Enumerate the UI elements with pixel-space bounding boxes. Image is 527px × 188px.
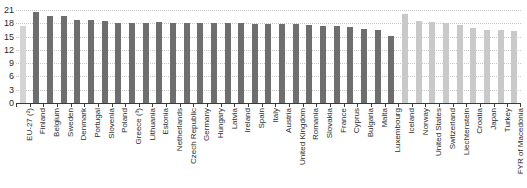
- bar: [429, 22, 435, 103]
- bar-slot: [57, 10, 71, 103]
- y-axis: 036912151821: [0, 10, 14, 103]
- y-tick-label: 18: [4, 19, 14, 28]
- x-tick: [262, 103, 263, 107]
- bar: [306, 25, 312, 103]
- x-tick-label: Iceland: [408, 108, 416, 134]
- bar-slot: [71, 10, 85, 103]
- bar-slot: [221, 10, 235, 103]
- x-tick-label: France: [340, 108, 348, 133]
- bar-slot: [316, 10, 330, 103]
- x-tick-label: Czech Republic: [190, 108, 198, 164]
- bar: [184, 23, 190, 103]
- x-tick: [234, 103, 235, 107]
- x-tick: [357, 103, 358, 107]
- x-tick: [30, 103, 31, 107]
- x-tick-label: Latvia: [231, 108, 239, 129]
- bar: [402, 14, 408, 103]
- bar: [170, 23, 176, 103]
- bar: [498, 30, 504, 103]
- bar: [457, 25, 463, 103]
- bar: [102, 21, 108, 103]
- x-tick-label: EU-27 (²): [26, 108, 34, 141]
- bar: [143, 23, 149, 103]
- x-tick-label: Sweden: [67, 108, 75, 137]
- x-tick-label: Estonia: [162, 108, 170, 135]
- bar: [115, 23, 121, 103]
- x-tick: [425, 103, 426, 107]
- bar-slot: [385, 10, 399, 103]
- x-tick: [344, 103, 345, 107]
- x-tick: [316, 103, 317, 107]
- x-tick: [439, 103, 440, 107]
- bar-slot: [152, 10, 166, 103]
- x-tick-label: Portugal: [94, 108, 102, 138]
- bar-slot: [303, 10, 317, 103]
- bar-slot: [344, 10, 358, 103]
- x-tick: [71, 103, 72, 107]
- bar: [47, 16, 53, 103]
- x-tick-label: Slovakia: [326, 108, 334, 138]
- x-tick: [112, 103, 113, 107]
- plot-area: [16, 10, 521, 103]
- x-tick-label: Croatia: [476, 108, 484, 134]
- bar-slot: [30, 10, 44, 103]
- y-tick-label: 0: [9, 99, 14, 108]
- x-tick: [207, 103, 208, 107]
- bar-slot: [180, 10, 194, 103]
- y-tick-label: 21: [4, 6, 14, 15]
- bar-slot: [371, 10, 385, 103]
- bar-slot: [275, 10, 289, 103]
- bar: [484, 30, 490, 104]
- bar-slot: [398, 10, 412, 103]
- x-tick: [494, 103, 495, 107]
- bar-slot: [234, 10, 248, 103]
- x-tick-label: Switzerland: [449, 108, 457, 149]
- bar-slot: [453, 10, 467, 103]
- bar: [61, 16, 67, 103]
- bar: [74, 20, 80, 103]
- bar-slot: [357, 10, 371, 103]
- x-tick-label: Spain: [258, 108, 266, 128]
- bar-slot: [139, 10, 153, 103]
- bar-slot: [166, 10, 180, 103]
- bar: [375, 30, 381, 104]
- x-tick-label: Hungary: [217, 108, 225, 138]
- x-tick: [398, 103, 399, 107]
- x-tick: [139, 103, 140, 107]
- x-tick: [289, 103, 290, 107]
- x-tick: [480, 103, 481, 107]
- bar-slot: [84, 10, 98, 103]
- bar-chart: 036912151821 EU-27 (²)FinlandBelgiumSwed…: [0, 0, 527, 188]
- x-tick: [43, 103, 44, 107]
- x-tick-label: United States: [435, 108, 443, 156]
- x-tick: [520, 103, 521, 107]
- x-tick-label: Luxembourg: [394, 108, 402, 152]
- bar: [443, 23, 449, 103]
- bar-slot: [248, 10, 262, 103]
- x-tick: [125, 103, 126, 107]
- x-tick-label: FYR of Macedonia: [517, 108, 525, 174]
- bar-slot: [98, 10, 112, 103]
- x-tick: [16, 103, 17, 107]
- x-tick: [303, 103, 304, 107]
- bar: [347, 27, 353, 103]
- bar: [511, 31, 517, 103]
- bar: [320, 26, 326, 104]
- bar-slot: [43, 10, 57, 103]
- bar: [20, 26, 26, 103]
- x-tick-label: Germany: [203, 108, 211, 141]
- bar: [252, 24, 258, 103]
- bar-slot: [412, 10, 426, 103]
- bar-series: [16, 10, 521, 103]
- bar: [238, 23, 244, 103]
- bar-slot: [425, 10, 439, 103]
- bar: [334, 26, 340, 103]
- x-tick: [57, 103, 58, 107]
- x-tick: [507, 103, 508, 107]
- bar-slot: [480, 10, 494, 103]
- x-tick: [330, 103, 331, 107]
- bar-slot: [125, 10, 139, 103]
- x-tick-label: United Kingdom: [299, 108, 307, 165]
- x-tick: [84, 103, 85, 107]
- bar-slot: [112, 10, 126, 103]
